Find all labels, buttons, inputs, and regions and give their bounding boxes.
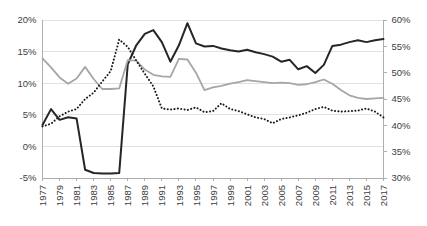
x-axis-tick-label: 1983: [88, 185, 99, 206]
left-axis-tick-label: 20%: [17, 14, 37, 25]
x-axis-tick-label: 1981: [71, 185, 82, 206]
series-group: [43, 23, 384, 173]
x-axis-tick-label: 1977: [37, 185, 48, 206]
right-axis-tickmarks: [384, 20, 388, 178]
chart-container: -5%0%5%10%15%20% 30%35%40%45%50%55%60% 1…: [0, 0, 427, 226]
x-axis-tick-label: 1979: [54, 185, 65, 206]
x-axis-tick-label: 2001: [242, 185, 253, 206]
x-axis-tick-label: 2005: [276, 185, 287, 206]
series-line-solid-black-series: [43, 23, 384, 173]
x-axis-tick-labels: 1977197919811983198519871989199119931995…: [37, 185, 389, 206]
line-chart: -5%0%5%10%15%20% 30%35%40%45%50%55%60% 1…: [0, 0, 427, 226]
x-axis-tick-label: 2015: [361, 185, 372, 206]
right-axis-tick-label: 60%: [392, 14, 412, 25]
plot-frame: [43, 20, 384, 178]
right-axis-tick-label: 35%: [392, 146, 412, 157]
right-axis-tick-label: 40%: [392, 120, 412, 131]
left-axis-tick-label: 10%: [17, 78, 37, 89]
x-axis-tick-label: 2003: [259, 185, 270, 206]
right-axis-tick-label: 30%: [392, 172, 412, 183]
x-axis-tick-label: 1997: [208, 185, 219, 206]
right-axis-tick-label: 55%: [392, 41, 412, 52]
x-axis-tick-label: 2011: [327, 185, 338, 205]
left-axis-tick-label: 5%: [23, 109, 37, 120]
right-axis-tick-label: 45%: [392, 93, 412, 104]
x-axis-tick-label: 1991: [156, 185, 167, 206]
right-axis-tick-labels: 30%35%40%45%50%55%60%: [392, 14, 412, 183]
left-axis-tick-labels: -5%0%5%10%15%20%: [17, 14, 37, 183]
x-axis-tick-label: 1993: [174, 185, 185, 206]
x-axis-tickmarks: [43, 178, 384, 181]
x-axis-tick-label: 1985: [105, 185, 116, 206]
right-axis-tick-label: 50%: [392, 67, 412, 78]
series-line-gray-series: [43, 58, 384, 99]
left-axis-tick-label: 15%: [17, 46, 37, 57]
x-axis-tick-label: 2017: [378, 185, 389, 206]
gridlines-group: [43, 20, 384, 178]
x-axis-tick-label: 1999: [225, 185, 236, 206]
x-axis-tick-label: 2007: [293, 185, 304, 206]
left-axis-tick-label: 0%: [23, 141, 37, 152]
x-axis-tick-label: 1987: [122, 185, 133, 206]
left-axis-tick-label: -5%: [20, 172, 37, 183]
x-axis-tick-label: 1995: [191, 185, 202, 206]
x-axis-tick-label: 2013: [344, 185, 355, 206]
x-axis-tick-label: 2009: [310, 185, 321, 206]
x-axis-tick-label: 1989: [139, 185, 150, 206]
